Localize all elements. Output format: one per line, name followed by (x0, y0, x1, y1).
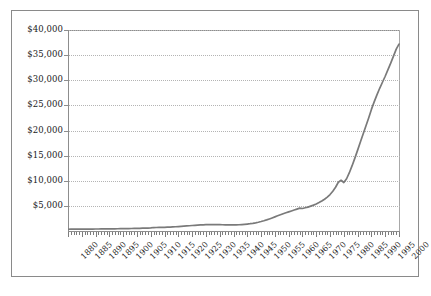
x-axis-labels: 1880188518901895190019051910191519201925… (0, 0, 431, 296)
chart-container: $5,000$10,000$15,000$20,000$25,000$30,00… (0, 0, 431, 296)
